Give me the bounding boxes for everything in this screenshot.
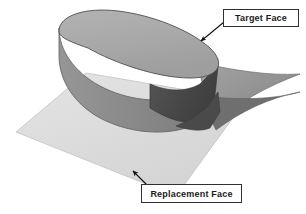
callout-target-face[interactable]: Target Face <box>223 9 299 27</box>
cad-illustration <box>0 0 306 214</box>
target-face-surface <box>59 10 219 78</box>
callout-replacement-face[interactable]: Replacement Face <box>141 184 242 203</box>
callout-target-face-label: Target Face <box>235 13 287 23</box>
callout-replacement-face-label: Replacement Face <box>150 189 232 199</box>
diagram-canvas: Target Face Replacement Face <box>0 0 306 214</box>
target-face-leader <box>201 22 224 41</box>
